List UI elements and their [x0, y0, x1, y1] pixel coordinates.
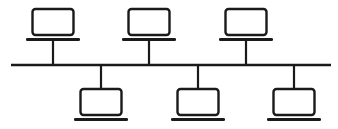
laptop-base-icon [74, 118, 128, 121]
laptop-screen-icon [33, 9, 74, 35]
laptop-bottom-1 [74, 65, 128, 121]
laptop-screen-icon [81, 89, 122, 115]
laptop-base-icon [171, 118, 225, 121]
laptop-base-icon [267, 118, 321, 121]
laptop-base-icon [122, 38, 176, 41]
laptop-top-1 [26, 9, 80, 65]
laptop-base-icon [219, 38, 273, 41]
laptop-top-2 [122, 9, 176, 65]
laptop-bottom-2 [171, 65, 225, 121]
laptop-screen-icon [129, 9, 170, 35]
laptop-screen-icon [178, 89, 219, 115]
bus-topology-diagram [0, 0, 338, 129]
laptop-base-icon [26, 38, 80, 41]
laptop-top-3 [219, 9, 273, 65]
laptop-bottom-3 [267, 65, 321, 121]
laptop-screen-icon [226, 9, 267, 35]
laptop-screen-icon [274, 89, 315, 115]
